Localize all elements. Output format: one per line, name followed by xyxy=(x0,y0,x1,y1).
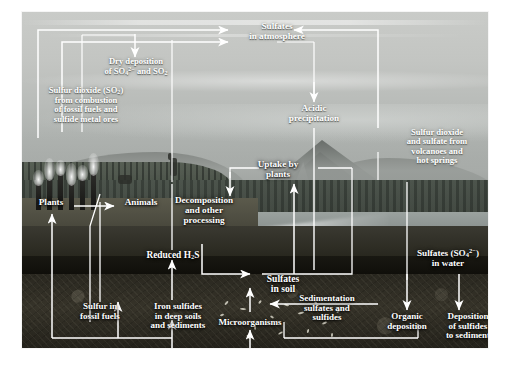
label-sulfur-dioxide-volcanoes: Sulfur dioxideand sulfate fromvolcanoes … xyxy=(386,128,488,165)
label-sedimentation: Sedimentationsulfates andsulfides xyxy=(280,294,374,323)
label-reduced-h2s: Reduced H2S xyxy=(130,250,216,261)
label-sulfates-in-atmosphere: Sulfatesin atmosphere xyxy=(230,22,324,42)
label-sulfur-in-fossil-fuels: Sulfur infossil fuels xyxy=(62,302,138,321)
label-sulfur-dioxide-combustion: Sulfur dioxide (SO2)from combustionof fo… xyxy=(22,86,150,124)
label-deposition-of-sulfides: Depositionof sulfidesto sediment xyxy=(430,312,488,341)
label-decomposition: Decompositionand otherprocessing xyxy=(156,196,252,226)
figure-canvas: Sulfatesin atmosphere Dry depositionof S… xyxy=(0,0,509,368)
line-uptake-to-soil-path xyxy=(262,168,352,274)
label-acidic-precipitation: Acidicprecipitation xyxy=(268,104,360,124)
label-dry-deposition: Dry depositionof SO42− and SO2 xyxy=(84,57,188,77)
label-sulfates-in-water: Sulfates (SO42−)in water xyxy=(402,248,488,269)
label-sulfates-in-soil: Sulfatesin soil xyxy=(252,274,314,295)
label-plants: Plants xyxy=(26,198,76,208)
label-uptake-by-plants: Uptake byplants xyxy=(238,160,318,180)
sulfur-cycle-photograph: Sulfatesin atmosphere Dry depositionof S… xyxy=(22,12,488,348)
